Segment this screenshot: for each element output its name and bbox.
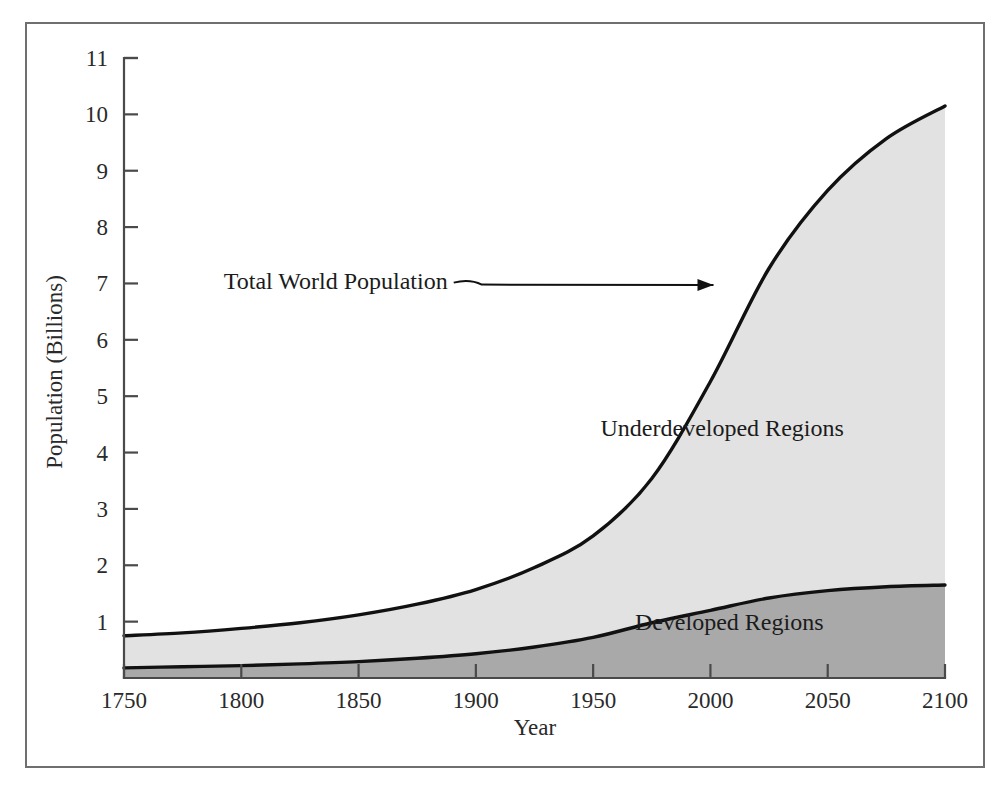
x-tick-label: 1850 [336,688,382,713]
x-tick-label: 1800 [218,688,264,713]
y-tick-label: 6 [97,328,109,353]
y-tick-label: 3 [97,497,109,522]
area-label-underdeveloped-regions: Underdeveloped Regions [601,415,844,441]
y-tick-label: 8 [97,215,109,240]
x-tick-label: 2050 [805,688,851,713]
annotation-leader-line [454,281,714,285]
x-tick-label: 2100 [922,688,968,713]
y-axis-title: Population (Billions) [42,275,67,469]
y-tick-label: 9 [97,159,109,184]
area-underdeveloped-regions [124,106,945,668]
x-tick-label: 1750 [101,688,147,713]
y-tick-label: 4 [97,441,109,466]
y-tick-label: 2 [97,553,109,578]
annotation-label-total-world-population: Total World Population [224,268,448,294]
annotation-arrowhead-icon [698,279,714,291]
y-tick-label: 10 [85,102,108,127]
y-axis-ticks [124,58,138,622]
y-tick-label: 5 [97,384,109,409]
x-axis-title: Year [514,715,557,740]
figure-container: 1234567891011 17501800185019001950200020… [0,0,1005,794]
x-tick-label: 1950 [570,688,616,713]
y-tick-label: 11 [86,46,108,71]
y-tick-label: 1 [97,610,109,635]
y-axis-tick-labels: 1234567891011 [85,46,109,635]
population-area-chart: 1234567891011 17501800185019001950200020… [0,0,1005,794]
x-tick-label: 2000 [687,688,733,713]
annotation-total-world-population: Total World Population [224,268,714,294]
x-axis-tick-labels: 17501800185019001950200020502100 [101,688,968,713]
x-tick-label: 1900 [453,688,499,713]
y-tick-label: 7 [97,271,109,296]
area-label-developed-regions: Developed Regions [635,609,824,635]
